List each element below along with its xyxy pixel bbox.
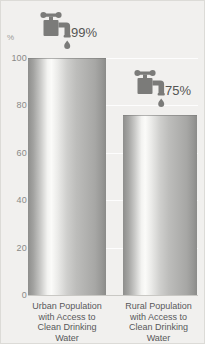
- value-label-rural: 75%: [165, 84, 191, 97]
- faucet-icon-urban: [39, 10, 73, 50]
- plot-area: % 100 80 60 40 20 0: [1, 1, 205, 344]
- ytick-label-20: 20: [17, 244, 27, 253]
- ytick-label-60: 60: [17, 149, 27, 158]
- y-axis-unit-label: %: [7, 34, 14, 42]
- ytick-label-0: 0: [22, 291, 27, 300]
- faucet-icon-rural: [133, 68, 167, 108]
- value-label-urban: 99%: [71, 26, 97, 39]
- bar-urban: [28, 58, 106, 295]
- ytick-label-100: 100: [11, 54, 27, 63]
- ytick-label-40: 40: [17, 196, 27, 205]
- category-label-rural: Rural Population with Access to Clean Dr…: [111, 301, 205, 343]
- ytick-label-80: 80: [17, 101, 27, 110]
- bar-chart: % 100 80 60 40 20 0: [0, 0, 205, 344]
- x-axis-baseline: [28, 295, 198, 296]
- bar-rural: [123, 115, 197, 295]
- category-label-urban: Urban Population with Access to Clean Dr…: [17, 301, 117, 343]
